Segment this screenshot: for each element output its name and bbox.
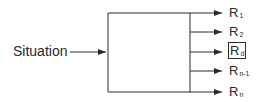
boxed-output: Rd xyxy=(228,42,246,59)
output-base: R xyxy=(229,5,238,20)
output-label-d: Rd xyxy=(228,44,246,60)
output-subscript: 2 xyxy=(239,31,243,38)
output-subscript: n-1 xyxy=(239,70,249,77)
output-base: R xyxy=(230,43,239,58)
process-box xyxy=(108,13,190,92)
output-subscript: d xyxy=(240,50,244,57)
output-base: R xyxy=(229,24,238,39)
output-label-n: Rn xyxy=(229,85,243,101)
output-label-n-1: Rn-1 xyxy=(229,64,250,80)
output-base: R xyxy=(229,63,238,78)
output-label-1: R1 xyxy=(229,6,243,22)
input-label: Situation xyxy=(13,45,67,58)
output-base: R xyxy=(229,84,238,99)
output-subscript: n xyxy=(239,91,243,98)
output-label-2: R2 xyxy=(229,25,243,41)
output-subscript: 1 xyxy=(239,12,243,19)
